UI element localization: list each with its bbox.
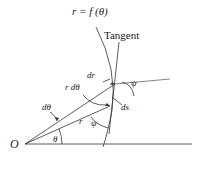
d-theta-label: dθ <box>42 103 51 112</box>
radial-extension-line <box>115 79 170 84</box>
theta-arc <box>59 129 62 144</box>
dr-dimension <box>103 79 110 82</box>
tangent-line <box>109 42 119 134</box>
polar-tangent-diagram: r = f (θ) Tangent O θ dθ r r dθ dr ds ψ … <box>0 0 200 184</box>
radius-r-dr-line <box>25 84 115 144</box>
ds-label: ds <box>121 103 129 112</box>
theta-label: θ <box>53 135 57 144</box>
r-d-theta-arc <box>83 95 106 105</box>
curve-label: r = f (θ) <box>72 6 108 17</box>
psi-lower-label: ψ <box>91 119 97 128</box>
radius-r-line <box>25 106 110 144</box>
dr-label: dr <box>87 71 95 80</box>
origin-label: O <box>10 138 19 150</box>
diagram-canvas <box>0 0 200 184</box>
r-d-theta-label: r dθ <box>65 83 80 92</box>
r-arrowhead <box>105 103 110 106</box>
d-theta-pointer <box>50 112 57 121</box>
r-label: r <box>79 117 83 126</box>
d-theta-arrowhead <box>55 117 59 121</box>
psi-upper-label: ψ <box>131 79 137 88</box>
tangent-label: Tangent <box>104 30 139 41</box>
